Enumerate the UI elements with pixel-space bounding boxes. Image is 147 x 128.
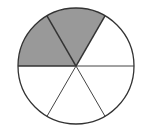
fraction-circle-diagram: [0, 0, 147, 128]
